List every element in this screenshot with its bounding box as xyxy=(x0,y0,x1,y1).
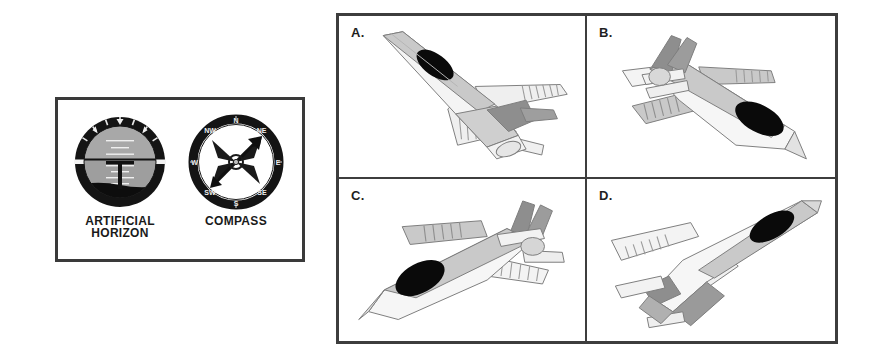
aircraft-option-a[interactable]: A. xyxy=(339,16,587,179)
svg-text:NW: NW xyxy=(204,127,216,134)
aircraft-option-b[interactable]: B. xyxy=(587,16,835,179)
aircraft-b-illustration xyxy=(587,16,835,177)
aircraft-d-illustration xyxy=(587,179,835,342)
artificial-horizon-instrument: ARTIFICIAL HORIZON xyxy=(72,114,168,239)
compass-graphic: N NE E SE S SW W NW xyxy=(188,114,284,210)
aircraft-option-a-label: A. xyxy=(351,25,365,40)
compass-dial: N NE E SE S SW W NW xyxy=(188,114,284,210)
aircraft-option-c-label: C. xyxy=(351,188,365,203)
svg-text:SW: SW xyxy=(204,189,216,196)
svg-text:SE: SE xyxy=(257,189,267,196)
worksheet-canvas: ARTIFICIAL HORIZON N NE E S xyxy=(0,0,877,364)
svg-text:NE: NE xyxy=(257,127,267,134)
aircraft-option-d-label: D. xyxy=(599,188,613,203)
instrument-panel: ARTIFICIAL HORIZON N NE E S xyxy=(55,97,305,262)
aircraft-c-illustration xyxy=(339,179,585,342)
aircraft-option-c[interactable]: C. xyxy=(339,179,587,342)
artificial-horizon-graphic xyxy=(72,114,168,210)
artificial-horizon-caption-line2: HORIZON xyxy=(72,227,168,239)
artificial-horizon-caption: ARTIFICIAL HORIZON xyxy=(72,215,168,239)
aircraft-option-grid: A. xyxy=(336,13,838,344)
compass-caption: COMPASS xyxy=(188,215,284,227)
compass-caption-line1: COMPASS xyxy=(205,214,267,228)
artificial-horizon-dial xyxy=(72,114,168,210)
aircraft-a-illustration xyxy=(339,16,585,177)
compass-instrument: N NE E SE S SW W NW xyxy=(188,114,284,227)
aircraft-option-b-label: B. xyxy=(599,25,613,40)
aircraft-option-d[interactable]: D. xyxy=(587,179,835,342)
